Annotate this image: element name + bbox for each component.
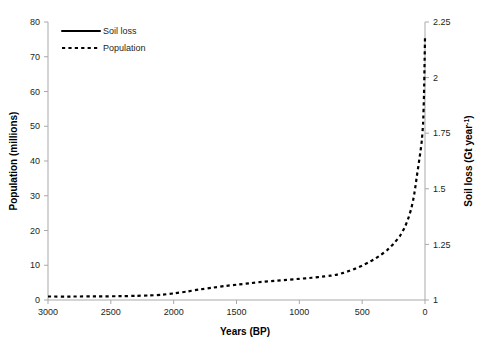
legend-item: Population bbox=[62, 43, 146, 53]
y-tick-label-right: 2 bbox=[433, 73, 438, 83]
y-axis-title-right-tail: ) bbox=[463, 115, 474, 118]
legend-item: Soil loss bbox=[62, 26, 137, 36]
y-axis-title-left: Population (millions) bbox=[8, 112, 19, 211]
y-tick-label-left: 70 bbox=[30, 52, 40, 62]
population-soil-loss-line-chart: 300025002000150010005000 010203040506070… bbox=[0, 0, 486, 346]
legend-label: Population bbox=[103, 43, 146, 53]
y-tick-label-right: 1.75 bbox=[433, 128, 451, 138]
y-tick-label-left: 0 bbox=[35, 295, 40, 305]
y-tick-label-right: 1 bbox=[433, 295, 438, 305]
x-tick-label: 1500 bbox=[226, 307, 246, 317]
legend-label: Soil loss bbox=[103, 26, 137, 36]
x-tick-label: 0 bbox=[422, 307, 427, 317]
y-tick-label-left: 10 bbox=[30, 260, 40, 270]
y-axis-title-right: Soil loss (Gt year-1) bbox=[463, 115, 475, 206]
y-axis-left: 01020304050607080 bbox=[30, 17, 48, 305]
x-tick-label: 500 bbox=[355, 307, 370, 317]
y-tick-label-left: 20 bbox=[30, 226, 40, 236]
y-tick-label-left: 50 bbox=[30, 121, 40, 131]
y-tick-label-right: 1.25 bbox=[433, 240, 451, 250]
chart-container: 300025002000150010005000 010203040506070… bbox=[0, 0, 486, 346]
x-tick-label: 2000 bbox=[164, 307, 184, 317]
y-tick-label-left: 80 bbox=[30, 17, 40, 27]
svg-text:Soil loss (Gt year-1): Soil loss (Gt year-1) bbox=[463, 115, 475, 206]
chart-legend: Soil lossPopulation bbox=[62, 26, 146, 53]
plot-frame bbox=[48, 22, 425, 300]
y-tick-label-left: 40 bbox=[30, 156, 40, 166]
y-tick-label-left: 30 bbox=[30, 191, 40, 201]
x-tick-label: 3000 bbox=[38, 307, 58, 317]
x-tick-label: 1000 bbox=[289, 307, 309, 317]
x-axis: 300025002000150010005000 bbox=[38, 300, 428, 317]
x-tick-label: 2500 bbox=[101, 307, 121, 317]
x-axis-title: Years (BP) bbox=[220, 326, 270, 337]
y-tick-label-right: 2.25 bbox=[433, 17, 451, 27]
y-tick-label-left: 60 bbox=[30, 87, 40, 97]
y-axis-title-right-base: Soil loss (Gt year bbox=[463, 125, 474, 207]
y-tick-label-right: 1.5 bbox=[433, 184, 446, 194]
y-axis-right: 11.251.51.7522.25 bbox=[425, 17, 451, 305]
series-line-population bbox=[48, 38, 425, 297]
